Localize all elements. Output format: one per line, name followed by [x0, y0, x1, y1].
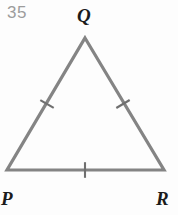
vertex-label-r: R	[156, 189, 169, 208]
vertex-label-q: Q	[77, 6, 91, 25]
figure-page: 35 Q P R	[0, 0, 178, 215]
vertex-label-p: P	[1, 189, 13, 208]
triangle-pqr-outline	[7, 38, 164, 170]
triangle-figure	[0, 0, 178, 215]
